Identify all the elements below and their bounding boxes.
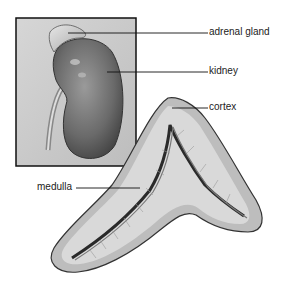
label-medulla: medulla (37, 182, 72, 192)
diagram-canvas (0, 0, 287, 290)
label-adrenal-gland: adrenal gland (209, 27, 270, 37)
label-kidney: kidney (209, 66, 238, 76)
kidney-inset (16, 18, 136, 166)
label-cortex: cortex (209, 102, 236, 112)
